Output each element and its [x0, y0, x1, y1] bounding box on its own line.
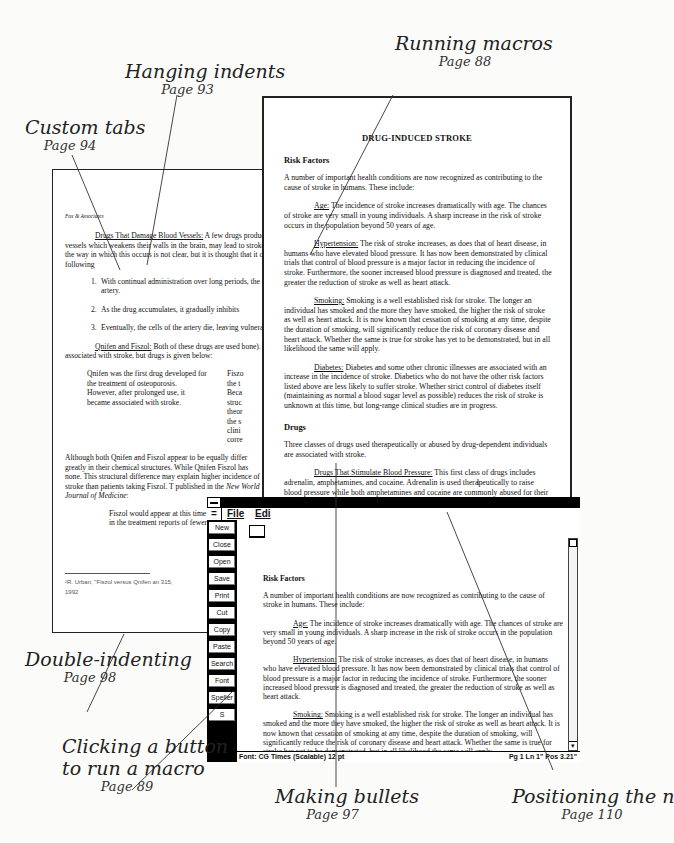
intro-paragraph: A number of important health conditions … [263, 591, 563, 609]
column-right: Fiszothe tBecastructheorthe sclinicorre [207, 369, 263, 453]
paragraph-hypertension: Hypertension: The risk of stroke increas… [284, 239, 552, 287]
menu-file[interactable]: File [227, 508, 244, 519]
search-button[interactable]: Search [208, 657, 236, 671]
macro-s-button[interactable]: S [208, 708, 236, 722]
callout-running-macros: Running macros Page 88 [395, 32, 535, 69]
callout-positioning-numbers: Positioning the numbers Page 110 [512, 785, 672, 822]
list-item: 2.As the drug accumulates, it gradually … [91, 305, 263, 314]
document-editing-area[interactable]: Risk Factors A number of important healt… [237, 520, 580, 752]
paragraph-smoking: Smoking: Smoking is a well established r… [284, 296, 552, 354]
document-title: DRUG-INDUCED STROKE [264, 134, 570, 144]
numbered-list: 1.With continual administration over lon… [91, 277, 263, 333]
vertical-scrollbar[interactable]: ▾ [568, 538, 578, 751]
paste-button[interactable]: Paste [208, 640, 236, 654]
callout-clicking-button: Clicking a button to run a macro Page 89 [62, 735, 192, 794]
paragraph-smoking: Smoking: Smoking is a well established r… [263, 710, 563, 756]
list-item: 3.Eventually, the cells of the artery di… [91, 323, 263, 332]
front-document-page: DRUG-INDUCED STROKE Risk Factors A numbe… [262, 96, 572, 520]
callout-double-indenting: Double-indenting Page 98 [25, 648, 155, 685]
print-button[interactable]: Print [208, 589, 236, 603]
list-item: 1.With continual administration over lon… [91, 277, 263, 296]
callout-custom-tabs: Custom tabs Page 94 [25, 116, 115, 153]
heading-drugs: Drugs [284, 423, 552, 433]
menu-edit[interactable]: Edi [255, 508, 271, 519]
copy-button[interactable]: Copy [208, 623, 236, 637]
callout-hanging-indents: Hanging indents Page 93 [125, 60, 250, 97]
footnote-rule [65, 573, 150, 574]
column-left: Qnifen was the first drug developed for … [87, 369, 207, 453]
heading-risk-factors: Risk Factors [284, 156, 552, 166]
tabbed-columns: Qnifen was the first drug developed for … [87, 369, 263, 453]
cut-button[interactable]: Cut [208, 606, 236, 620]
paragraph-age: Age: The incidence of stroke increases d… [263, 619, 563, 647]
app-window: = File Edi New Close Open Save Print Cut… [207, 497, 580, 762]
editor-document: Risk Factors A number of important healt… [263, 574, 563, 765]
status-position: Pg 1 Ln 1" Pos 3.21" [509, 752, 577, 762]
paragraph-comparison: Although both Qnifen and Fiszol appear t… [65, 453, 263, 500]
footnote: ¹R. Urban, "Fiszol versus Qnifen an 315,… [65, 578, 185, 597]
speller-button[interactable]: Speller [208, 691, 236, 705]
heading-risk-factors: Risk Factors [263, 574, 563, 583]
paragraph-age: Age: The incidence of stroke increases d… [284, 201, 552, 230]
status-font: Font: CG Times (Scalable) 12 pt [239, 752, 344, 762]
paragraph-blood-vessels: Drugs That Damage Blood Vessels: A few d… [65, 231, 263, 269]
doc-control-menu-icon[interactable]: = [207, 508, 222, 520]
button-bar: New Close Open Save Print Cut Copy Paste… [207, 520, 237, 762]
intro-paragraph: A number of important health conditions … [284, 173, 552, 192]
scroll-thumb[interactable] [569, 539, 577, 547]
page-header: Fox & Associates [65, 212, 263, 221]
font-button[interactable]: Font [208, 674, 236, 688]
status-bar: Font: CG Times (Scalable) 12 pt Pg 1 Ln … [237, 751, 580, 762]
title-bar [207, 497, 580, 508]
close-button[interactable]: Close [208, 538, 236, 552]
scroll-down-arrow-icon[interactable]: ▾ [569, 741, 577, 750]
page-number: 1 [476, 478, 480, 488]
paragraph-hypertension: Hypertension: The risk of stroke increas… [263, 655, 563, 701]
save-button[interactable]: Save [208, 572, 236, 586]
paragraph-diabetes: Diabetes: Diabetes and some other chroni… [284, 363, 552, 411]
new-button[interactable]: New [208, 521, 236, 535]
open-button[interactable]: Open [208, 555, 236, 569]
ruler-icon[interactable] [249, 525, 265, 538]
drugs-intro-paragraph: Three classes of drugs used therapeutica… [284, 440, 552, 459]
paragraph-qnifen-fiszol: Qnifen and Fiszol: Both of these drugs a… [65, 342, 263, 361]
callout-making-bullets: Making bullets Page 97 [275, 785, 390, 822]
system-menu-button[interactable] [207, 497, 221, 508]
